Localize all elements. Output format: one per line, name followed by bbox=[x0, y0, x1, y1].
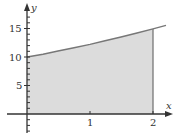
x-tick-label-2: 2 bbox=[150, 117, 156, 128]
chart: 15 10 5 1 2 y x bbox=[0, 0, 175, 139]
y-axis-arrow-icon bbox=[24, 3, 30, 11]
y-tick-label-15: 15 bbox=[9, 23, 22, 34]
y-tick-label-10: 10 bbox=[9, 52, 22, 63]
x-tick-label-1: 1 bbox=[87, 117, 93, 128]
x-axis-arrow-icon bbox=[165, 111, 173, 117]
x-axis-label: x bbox=[166, 100, 172, 111]
shaded-area bbox=[27, 29, 153, 114]
y-axis-label: y bbox=[30, 2, 37, 13]
y-tick-label-5: 5 bbox=[16, 80, 22, 91]
